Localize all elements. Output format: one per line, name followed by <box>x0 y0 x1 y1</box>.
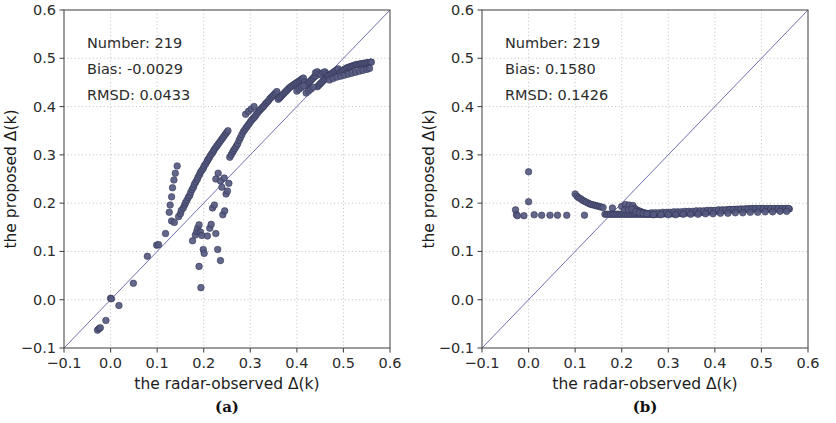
data-point <box>108 295 115 302</box>
x-tick-label: −0.1 <box>46 355 81 371</box>
data-point <box>732 210 739 217</box>
x-tick-label: 0.3 <box>657 355 680 371</box>
data-point <box>783 208 790 215</box>
data-point <box>217 257 224 264</box>
y-tick-label: 0.3 <box>451 147 474 163</box>
data-point <box>204 233 211 240</box>
y-tick-label: 0.4 <box>33 99 56 115</box>
stat-line: Bias: -0.0029 <box>87 61 183 77</box>
data-point <box>740 210 747 217</box>
y-tick-label: 0.4 <box>451 99 474 115</box>
data-point <box>116 302 123 309</box>
x-tick-label: −0.1 <box>464 355 499 371</box>
data-point <box>672 211 679 218</box>
x-tick-label: 0.4 <box>703 355 726 371</box>
data-point <box>144 253 151 260</box>
x-axis-label: the radar-observed Δ(k) <box>134 375 319 393</box>
data-point <box>225 127 232 134</box>
data-point <box>167 202 174 209</box>
plot-a-content: −0.1−0.10.00.00.10.10.20.20.30.30.40.40.… <box>2 2 402 416</box>
panel-caption-b: (b) <box>633 398 658 416</box>
stat-line: Bias: 0.1580 <box>505 61 596 77</box>
plot-b-content: −0.1−0.10.00.00.10.10.20.20.30.30.40.40.… <box>420 2 820 416</box>
scatter-plot-b: −0.1−0.10.00.00.10.10.20.20.30.30.40.40.… <box>418 0 836 423</box>
data-point <box>368 59 375 66</box>
data-point <box>547 212 554 219</box>
figure-container: −0.1−0.10.00.00.10.10.20.20.30.30.40.40.… <box>0 0 836 423</box>
data-point <box>172 170 179 177</box>
y-tick-label: 0.5 <box>33 50 56 66</box>
data-point <box>174 163 181 170</box>
x-tick-label: 0.1 <box>146 355 169 371</box>
data-point <box>680 211 687 218</box>
x-tick-label: 0.2 <box>610 355 633 371</box>
y-tick-label: 0.2 <box>451 195 474 211</box>
data-point <box>600 204 607 211</box>
data-point <box>725 210 732 217</box>
y-tick-label: −0.1 <box>21 340 56 356</box>
data-point <box>310 84 317 91</box>
x-tick-label: 0.0 <box>517 355 540 371</box>
data-point <box>201 250 208 257</box>
data-point <box>609 205 616 212</box>
scatter-plot-a: −0.1−0.10.00.00.10.10.20.20.30.30.40.40.… <box>0 0 418 423</box>
x-tick-label: 0.5 <box>750 355 773 371</box>
data-point <box>658 211 665 218</box>
data-point <box>754 209 761 216</box>
data-point <box>366 65 373 72</box>
stat-line: Number: 219 <box>505 35 600 51</box>
data-point <box>554 212 561 219</box>
data-point <box>130 280 137 287</box>
data-point <box>777 208 784 215</box>
data-point <box>97 324 104 331</box>
data-point <box>747 209 754 216</box>
x-tick-label: 0.4 <box>285 355 308 371</box>
data-point <box>769 209 776 216</box>
data-point <box>762 209 769 216</box>
x-tick-label: 0.6 <box>796 355 819 371</box>
y-tick-label: 0.0 <box>451 292 474 308</box>
panel-b: −0.1−0.10.00.00.10.10.20.20.30.30.40.40.… <box>418 0 836 423</box>
x-axis-label: the radar-observed Δ(k) <box>552 375 737 393</box>
data-point <box>162 230 169 237</box>
data-point <box>213 230 220 237</box>
data-point <box>301 83 308 90</box>
stat-line: RMSD: 0.0433 <box>87 87 190 103</box>
stat-line: Number: 219 <box>87 35 182 51</box>
data-point <box>169 184 176 191</box>
y-axis-label: the proposed Δ(k) <box>2 109 20 248</box>
data-point <box>525 198 532 205</box>
y-tick-label: 0.6 <box>451 2 474 18</box>
data-point <box>251 103 258 110</box>
y-tick-label: 0.2 <box>33 195 56 211</box>
data-points <box>512 168 792 219</box>
stat-line: RMSD: 0.1426 <box>505 87 608 103</box>
y-tick-label: 0.5 <box>451 50 474 66</box>
data-point <box>211 202 218 209</box>
data-point <box>224 188 231 195</box>
y-tick-label: −0.1 <box>439 340 474 356</box>
data-point <box>665 211 672 218</box>
data-point <box>710 210 717 217</box>
y-tick-label: 0.3 <box>33 147 56 163</box>
data-point <box>226 180 233 187</box>
data-point <box>514 212 521 219</box>
y-tick-label: 0.0 <box>33 292 56 308</box>
y-tick-label: 0.1 <box>33 243 56 259</box>
data-point <box>214 246 221 253</box>
data-point <box>525 168 532 175</box>
data-point <box>687 211 694 218</box>
y-axis-label: the proposed Δ(k) <box>420 109 438 248</box>
data-point <box>521 212 528 219</box>
data-point <box>221 175 228 182</box>
data-point <box>644 210 651 217</box>
data-point <box>171 219 178 226</box>
y-tick-label: 0.6 <box>33 2 56 18</box>
data-point <box>171 177 178 184</box>
y-tick-label: 0.1 <box>451 243 474 259</box>
data-point <box>168 194 175 201</box>
x-tick-label: 0.1 <box>564 355 587 371</box>
panel-caption-a: (a) <box>215 398 239 416</box>
data-point <box>702 210 709 217</box>
data-point <box>215 170 222 177</box>
